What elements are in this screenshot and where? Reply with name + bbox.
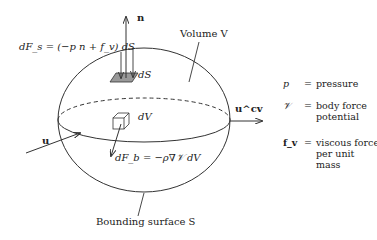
volume-element-label: dV <box>138 111 152 122</box>
bounding-surface-label: Bounding surface S <box>96 216 195 227</box>
velocity-in-arrow <box>26 133 80 153</box>
velocity-cv-label: u^cv <box>235 103 263 114</box>
surface-element-label: dS <box>138 69 151 80</box>
volume-element-cube <box>113 113 129 129</box>
surface-leader <box>138 193 144 216</box>
body-force-label: dF_b = −ρ∇𝒱 dV <box>115 152 201 164</box>
velocity-in-label: u <box>42 135 49 146</box>
surface-force-label: dF_s = (−p n + f_v) dS <box>19 41 135 52</box>
volume-leader <box>189 42 199 82</box>
volume-label: Volume V <box>180 28 228 39</box>
equator-front <box>58 120 230 142</box>
surface-element <box>110 73 138 82</box>
normal-label: n <box>137 12 144 23</box>
